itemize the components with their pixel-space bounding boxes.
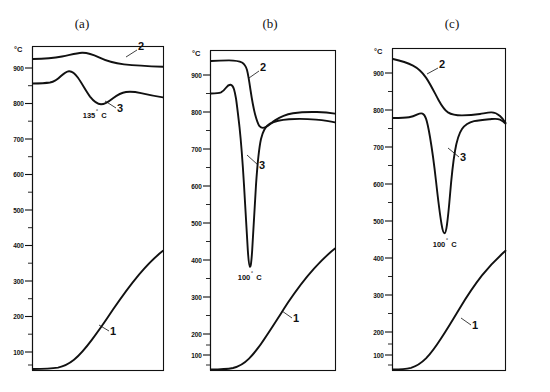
panel-b-tick-500: 500 bbox=[191, 220, 202, 227]
panel-a-tick-800: 800 bbox=[13, 100, 24, 107]
panel-a-annot-degree: ° bbox=[96, 108, 98, 114]
panel-c-tick-200: 200 bbox=[373, 329, 384, 336]
panel-a-curve-label-2: 2 bbox=[138, 40, 144, 52]
panel-a-tick-100: 100 bbox=[13, 349, 24, 356]
panel-c-tick-500: 500 bbox=[373, 218, 384, 225]
panel-b-leader-3 bbox=[247, 155, 258, 165]
panel-c-tick-400: 400 bbox=[373, 255, 384, 262]
panel-c: (c) bbox=[360, 0, 550, 392]
panel-b-curve-2 bbox=[211, 60, 335, 127]
panel-a-tick-600: 600 bbox=[13, 171, 24, 178]
panel-b-leader-2 bbox=[249, 71, 259, 78]
panel-b-title: (b) bbox=[240, 16, 300, 32]
panel-a-plot: °C 900 800 700 600 500 400 300 200 100 2… bbox=[0, 0, 185, 392]
panel-a-tick-900: 900 bbox=[13, 65, 24, 72]
panel-b-tick-800: 800 bbox=[191, 109, 202, 116]
panel-b-tick-300: 300 bbox=[191, 294, 202, 301]
panel-c-annot-value: 100 bbox=[433, 240, 446, 249]
panel-c-leader-2 bbox=[427, 68, 438, 74]
panel-c-curve-1 bbox=[393, 251, 506, 370]
panel-b-tick-600: 600 bbox=[191, 183, 202, 190]
panel-c-curve-label-1: 1 bbox=[472, 319, 478, 331]
panel-c-curve-3 bbox=[393, 113, 506, 233]
panel-c-tick-900: 900 bbox=[373, 70, 384, 77]
panel-c-tick-100: 100 bbox=[373, 352, 384, 359]
panel-a-frame bbox=[33, 47, 164, 371]
panel-b-tick-400: 400 bbox=[191, 257, 202, 264]
panel-a-tick-500: 500 bbox=[13, 207, 24, 214]
panel-a-curve-label-1: 1 bbox=[110, 325, 116, 337]
panel-c-annot-degree: ° bbox=[446, 237, 448, 243]
panel-b-annot-unit: C bbox=[256, 273, 262, 282]
panel-a-title: (a) bbox=[52, 16, 112, 32]
panel-b-unit-label: °C bbox=[192, 49, 201, 58]
panel-a-annotation-135c: 135 ° C bbox=[83, 108, 108, 120]
panel-a-tick-700: 700 bbox=[13, 136, 24, 143]
panel-a-curve-2 bbox=[33, 53, 163, 67]
panel-a-y-ticks bbox=[25, 68, 33, 365]
panel-b-tick-100: 100 bbox=[191, 352, 202, 359]
panel-a: (a) bbox=[0, 0, 185, 392]
panel-a-curve-1 bbox=[33, 251, 163, 369]
panel-b: (b) bbox=[185, 0, 360, 392]
panel-b-curve-label-3: 3 bbox=[259, 159, 265, 171]
panel-b-tick-200: 200 bbox=[191, 331, 202, 338]
panel-c-annot-unit: C bbox=[451, 240, 457, 249]
panel-c-curve-label-2: 2 bbox=[439, 58, 445, 70]
panel-a-annot-unit: C bbox=[101, 111, 107, 120]
panel-c-tick-700: 700 bbox=[373, 144, 384, 151]
panel-a-curve-3 bbox=[33, 71, 163, 104]
panel-b-tick-700: 700 bbox=[191, 146, 202, 153]
panel-c-title: (c) bbox=[422, 16, 482, 32]
panel-b-annot-value: 100 bbox=[238, 273, 251, 282]
panel-c-leader-1 bbox=[461, 318, 471, 325]
panel-c-tick-300: 300 bbox=[373, 292, 384, 299]
panel-b-annotation-100c: 100 ° C bbox=[238, 270, 263, 282]
panel-a-tick-400: 400 bbox=[13, 242, 24, 249]
panel-b-annot-degree: ° bbox=[251, 270, 253, 276]
panel-b-leader-1 bbox=[282, 311, 292, 318]
panel-a-leader-2 bbox=[126, 50, 137, 57]
panel-c-unit-label: °C bbox=[374, 47, 383, 56]
panel-b-tick-900: 900 bbox=[191, 72, 202, 79]
panel-b-curve-label-2: 2 bbox=[260, 61, 266, 73]
thermal-analysis-figure: (a) bbox=[0, 0, 550, 392]
panel-c-curve-label-3: 3 bbox=[460, 151, 466, 163]
panel-b-curve-1 bbox=[211, 249, 335, 370]
panel-b-plot: °C 900 800 700 600 500 400 300 200 100 2… bbox=[185, 0, 360, 392]
panel-a-tick-200: 200 bbox=[13, 313, 24, 320]
panel-a-leader-3 bbox=[105, 101, 116, 108]
panel-a-unit-label: °C bbox=[14, 45, 23, 54]
panel-c-y-ticks bbox=[385, 73, 393, 365]
panel-a-annot-value: 135 bbox=[83, 111, 96, 120]
panel-c-tick-600: 600 bbox=[373, 181, 384, 188]
panel-c-plot: °C 900 800 700 600 500 400 300 200 100 2… bbox=[360, 0, 550, 392]
panel-a-tick-300: 300 bbox=[13, 278, 24, 285]
panel-b-frame bbox=[211, 51, 336, 371]
panel-c-annotation-100c: 100 ° C bbox=[433, 237, 458, 249]
panel-a-curve-label-3: 3 bbox=[117, 102, 123, 114]
panel-b-y-ticks bbox=[203, 75, 211, 365]
panel-c-curve-2 bbox=[393, 59, 506, 123]
panel-c-tick-800: 800 bbox=[373, 107, 384, 114]
panel-b-curve-label-1: 1 bbox=[293, 312, 299, 324]
